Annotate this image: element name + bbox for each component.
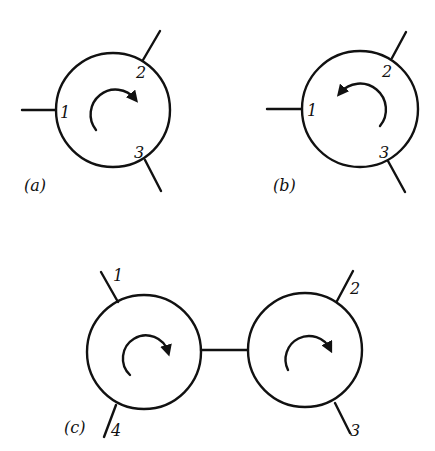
port-2-label: 2: [381, 62, 392, 81]
clockwise-arrow-icon: [123, 335, 168, 375]
panel-a: 1 2 3 (a): [22, 31, 170, 195]
port-2-line: [143, 31, 160, 60]
circulator-right-body: [248, 293, 362, 407]
panel-b: 1 2 3 (b): [267, 32, 418, 195]
port-1-label: 1: [60, 103, 70, 122]
clockwise-arrow-icon: [286, 336, 330, 370]
circulator-body: [56, 53, 170, 167]
clockwise-arrow-icon: [91, 90, 135, 130]
port-1-label: 1: [113, 266, 123, 285]
port-3-label: 3: [350, 421, 360, 440]
port-3-label: 3: [379, 143, 389, 162]
panel-caption: (c): [64, 418, 85, 437]
panel-caption: (b): [273, 176, 296, 195]
counterclockwise-arrow-icon: [340, 84, 386, 126]
panel-c: 1 4 2 3 (c): [64, 266, 362, 440]
port-3-line: [388, 161, 405, 192]
port-4-label: 4: [110, 421, 121, 440]
port-2-label: 2: [349, 279, 360, 298]
panel-caption: (a): [24, 176, 46, 195]
circulator-body: [302, 51, 418, 167]
port-1-label: 1: [307, 101, 317, 120]
port-2-label: 2: [135, 63, 146, 82]
circulator-diagram: 1 2 3 (a) 1 2 3 (b) 1 4 2 3 (c): [0, 0, 435, 451]
circulator-left-body: [87, 295, 201, 409]
port-2-line: [392, 32, 406, 58]
port-3-label: 3: [134, 143, 144, 162]
port-3-line: [145, 160, 161, 191]
port-3-line: [335, 403, 350, 433]
